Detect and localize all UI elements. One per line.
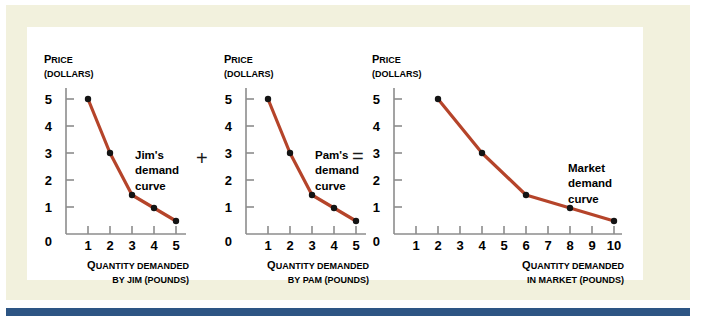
chart-jim-xtick-4: 4 (146, 238, 162, 253)
chart-market-xtick-9: 9 (584, 238, 600, 253)
chart-jim-ytick-1: 1 (38, 200, 52, 215)
chart-jim: PRICE (DOLLARS) (36, 48, 206, 288)
chart-market-y-ticks (394, 99, 402, 207)
chart-jim-xtick-5: 5 (168, 238, 184, 253)
chart-pam-x-axis-title-line1: QUANTITY DEMANDED (216, 254, 369, 275)
chart-pam-x-axis-title: QUANTITY DEMANDED BY PAM (POUNDS) (216, 254, 369, 286)
chart-market-ytick-3: 3 (366, 146, 380, 161)
chart-jim-x-axis-title-line2: BY JIM (POUNDS) (36, 275, 189, 287)
chart-pam: PRICE (DOLLARS) (216, 48, 386, 288)
chart-market-xtick-1: 1 (408, 238, 424, 253)
chart-jim-ytick-4: 4 (38, 119, 52, 134)
chart-pam-ytick-1: 1 (218, 200, 232, 215)
operator-plus: + (196, 147, 208, 170)
chart-market-x-axis-title-line2: IN MARKET (POUNDS) (464, 275, 624, 287)
chart-market-ytick-2: 2 (366, 173, 380, 188)
chart-market-annotation-line1: Market (568, 161, 612, 176)
chart-jim-ytick-5: 5 (38, 92, 52, 107)
chart-pam-x-axis-title-line2: BY PAM (POUNDS) (216, 275, 369, 287)
chart-market-ytick-4: 4 (366, 119, 380, 134)
chart-market-x-axis-title-line1: QUANTITY DEMANDED (464, 254, 624, 275)
chart-jim-annotation: Jim's demand curve (135, 148, 179, 194)
chart-pam-xtick-1: 1 (260, 238, 276, 253)
chart-jim-ytick-2: 2 (38, 173, 52, 188)
chart-jim-ytick-0: 0 (38, 234, 52, 249)
chart-jim-x-axis-title: QUANTITY DEMANDED BY JIM (POUNDS) (36, 254, 189, 286)
chart-jim-y-ticks (66, 99, 74, 207)
chart-pam-annotation-line3: curve (315, 179, 359, 194)
operator-equals: = (352, 145, 364, 168)
chart-jim-x-axis-title-line1: QUANTITY DEMANDED (36, 254, 189, 275)
chart-market-xtick-6: 6 (518, 238, 534, 253)
chart-market-annotation: Market demand curve (568, 161, 612, 207)
chart-market-ytick-1: 1 (366, 200, 380, 215)
chart-jim-x-ticks (88, 226, 176, 234)
chart-pam-xtick-3: 3 (304, 238, 320, 253)
chart-market: PRICE (DOLLARS) (364, 48, 634, 288)
chart-pam-xtick-4: 4 (326, 238, 342, 253)
chart-jim-ytick-3: 3 (38, 146, 52, 161)
chart-jim-annotation-line3: curve (135, 179, 179, 194)
chart-market-ytick-5: 5 (366, 92, 380, 107)
chart-market-xtick-5: 5 (496, 238, 512, 253)
chart-pam-ytick-0: 0 (218, 234, 232, 249)
chart-pam-ytick-2: 2 (218, 173, 232, 188)
chart-market-x-axis-title: QUANTITY DEMANDED IN MARKET (POUNDS) (464, 254, 624, 286)
chart-jim-xtick-1: 1 (80, 238, 96, 253)
chart-market-ytick-0: 0 (366, 234, 380, 249)
chart-pam-ytick-3: 3 (218, 146, 232, 161)
figure-root: PRICE (DOLLARS) (0, 0, 715, 327)
chart-market-xtick-8: 8 (562, 238, 578, 253)
chart-jim-annotation-line1: Jim's (135, 148, 179, 163)
chart-market-xtick-3: 3 (452, 238, 468, 253)
chart-pam-xtick-5: 5 (348, 238, 364, 253)
chart-pam-ytick-4: 4 (218, 119, 232, 134)
chart-jim-xtick-2: 2 (102, 238, 118, 253)
chart-market-x-ticks (416, 226, 614, 234)
chart-pam-x-ticks (268, 226, 356, 234)
chart-market-xtick-2: 2 (430, 238, 446, 253)
chart-jim-xtick-3: 3 (124, 238, 140, 253)
chart-jim-annotation-line2: demand (135, 163, 179, 178)
chart-market-xtick-7: 7 (540, 238, 556, 253)
chart-market-xtick-4: 4 (474, 238, 490, 253)
chart-market-annotation-line3: curve (568, 192, 612, 207)
figure-bottom-rule (6, 308, 690, 316)
chart-pam-ytick-5: 5 (218, 92, 232, 107)
chart-market-xtick-10: 10 (604, 238, 624, 253)
chart-pam-xtick-2: 2 (282, 238, 298, 253)
chart-pam-y-ticks (246, 99, 254, 207)
chart-market-annotation-line2: demand (568, 176, 612, 191)
